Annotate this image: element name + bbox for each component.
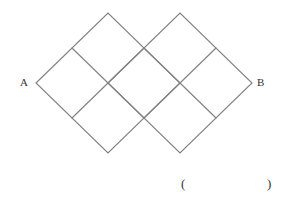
lattice-diagram xyxy=(0,0,286,205)
answer-close-paren: ) xyxy=(267,177,271,190)
answer-open-paren: ( xyxy=(181,177,185,190)
point-label-b: B xyxy=(257,77,264,88)
point-label-a: A xyxy=(20,77,28,88)
